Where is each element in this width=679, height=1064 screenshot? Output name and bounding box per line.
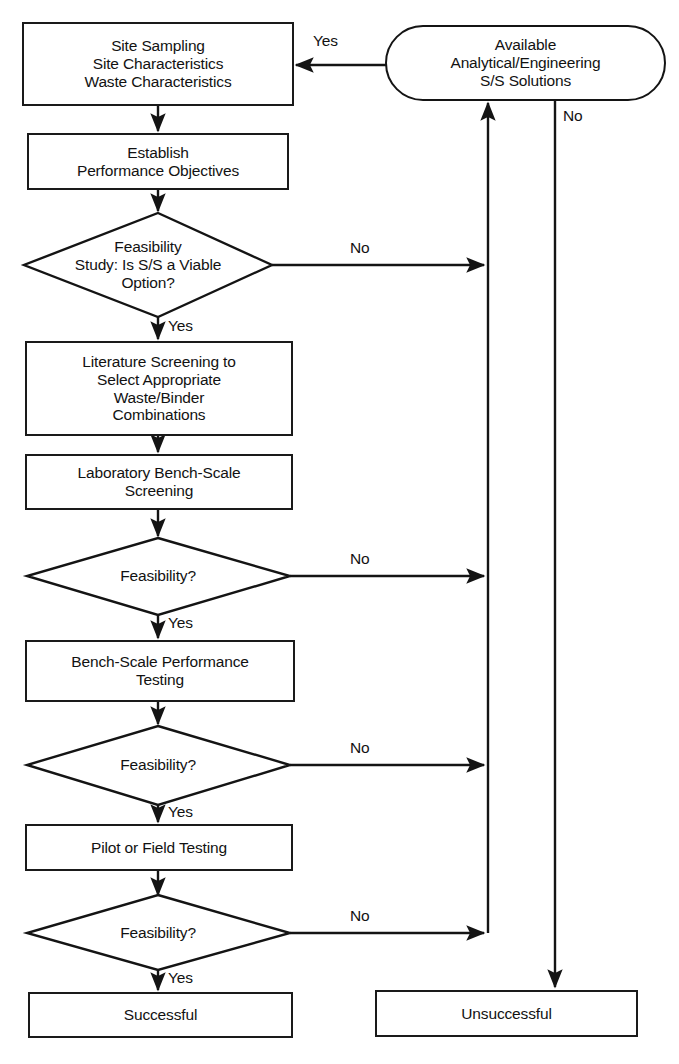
edge-label-feasibility3-no: No — [350, 739, 370, 757]
node-unsuccessful-label: Unsuccessful — [461, 1005, 551, 1023]
edge-label-feasibility-study-yes: Yes — [168, 317, 193, 335]
node-pilot-field-testing[interactable]: Pilot or Field Testing — [25, 824, 293, 871]
flowchart-canvas: Site Sampling Site Characteristics Waste… — [0, 0, 679, 1064]
edge-label-solutions-yes-text: Yes — [313, 32, 338, 49]
edge-label-feasibility-study-yes-text: Yes — [168, 317, 193, 334]
edge-label-feasibility2-no-text: No — [350, 550, 370, 567]
node-pilot-field-testing-label: Pilot or Field Testing — [91, 839, 227, 857]
edge-label-solutions-no: No — [563, 107, 583, 125]
node-successful[interactable]: Successful — [28, 992, 293, 1038]
edge-label-feasibility-study-no-text: No — [350, 239, 370, 256]
edge-label-solutions-no-text: No — [563, 107, 583, 124]
edge-label-feasibility3-yes-text: Yes — [168, 803, 193, 820]
node-available-solutions-label: Available Analytical/Engineering S/S Sol… — [450, 36, 600, 90]
edge-label-feasibility4-no: No — [350, 907, 370, 925]
node-available-solutions[interactable]: Available Analytical/Engineering S/S Sol… — [385, 25, 666, 101]
node-establish-objectives[interactable]: Establish Performance Objectives — [27, 133, 289, 190]
edge-label-feasibility4-no-text: No — [350, 907, 370, 924]
node-site-sampling-label: Site Sampling Site Characteristics Waste… — [84, 37, 231, 91]
decision-feasibility-4 — [27, 895, 290, 970]
edge-label-feasibility-study-no: No — [350, 239, 370, 257]
node-bench-scale-performance[interactable]: Bench-Scale Performance Testing — [25, 640, 295, 702]
edge-label-feasibility2-yes-text: Yes — [168, 614, 193, 631]
node-bench-scale-performance-label: Bench-Scale Performance Testing — [71, 653, 248, 689]
edge-label-feasibility2-yes: Yes — [168, 614, 193, 632]
edge-label-feasibility2-no: No — [350, 550, 370, 568]
decision-feasibility-study — [24, 213, 272, 317]
decision-feasibility-2 — [27, 538, 290, 615]
edge-label-solutions-yes: Yes — [313, 32, 338, 50]
decision-feasibility-3 — [27, 726, 290, 805]
edge-label-feasibility3-no-text: No — [350, 739, 370, 756]
edge-label-feasibility4-yes: Yes — [168, 969, 193, 987]
node-lab-bench-screening[interactable]: Laboratory Bench-Scale Screening — [25, 454, 293, 510]
node-literature-screening-label: Literature Screening to Select Appropria… — [82, 353, 235, 425]
edge-label-feasibility3-yes: Yes — [168, 803, 193, 821]
node-successful-label: Successful — [124, 1006, 197, 1024]
node-site-sampling[interactable]: Site Sampling Site Characteristics Waste… — [22, 22, 294, 106]
edge-label-feasibility4-yes-text: Yes — [168, 969, 193, 986]
node-literature-screening[interactable]: Literature Screening to Select Appropria… — [25, 341, 293, 436]
node-establish-objectives-label: Establish Performance Objectives — [77, 144, 239, 180]
node-lab-bench-screening-label: Laboratory Bench-Scale Screening — [78, 464, 241, 500]
node-unsuccessful[interactable]: Unsuccessful — [375, 990, 638, 1037]
